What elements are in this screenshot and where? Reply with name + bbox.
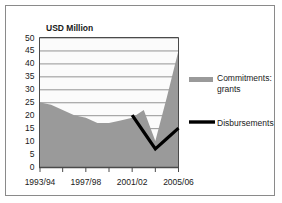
- x-axis-tick-labels: 1993/941997/982001/022005/06: [25, 177, 194, 187]
- y-tick-5: 5: [30, 149, 35, 159]
- y-tick-40: 40: [25, 58, 35, 68]
- y-tick-15: 15: [25, 123, 35, 133]
- chart-area-disbursements: 05101520253035404550 1993/941997/982001/…: [6, 6, 276, 197]
- x-tick-1993/94: 1993/94: [25, 177, 56, 187]
- legend-swatch-commitments-grants: [189, 77, 213, 82]
- legend-label-disbursements: Disbursements: [217, 118, 274, 128]
- y-tick-20: 20: [25, 110, 35, 120]
- y-tick-35: 35: [25, 71, 35, 81]
- y-tick-0: 0: [30, 162, 35, 172]
- legend-label-commitments-grants-line1: Commitments:: [217, 73, 272, 83]
- legend-label-commitments-grants-line2: grants: [217, 84, 241, 94]
- y-tick-50: 50: [25, 33, 35, 43]
- x-tick-2001/02: 2001/02: [117, 177, 148, 187]
- y-tick-45: 45: [25, 45, 35, 55]
- chart-svg: 05101520253035404550 1993/941997/982001/…: [6, 6, 276, 197]
- y-tick-10: 10: [25, 136, 35, 146]
- legend: Commitments: grants Disbursements: [189, 73, 274, 128]
- y-axis-tick-labels: 05101520253035404550: [25, 33, 35, 173]
- chart-title: USD Million: [46, 23, 93, 33]
- y-tick-30: 30: [25, 84, 35, 94]
- x-tick-2005/06: 2005/06: [163, 177, 194, 187]
- x-tick-1997/98: 1997/98: [70, 177, 101, 187]
- chart-frame: 05101520253035404550 1993/941997/982001/…: [5, 5, 275, 196]
- y-tick-25: 25: [25, 97, 35, 107]
